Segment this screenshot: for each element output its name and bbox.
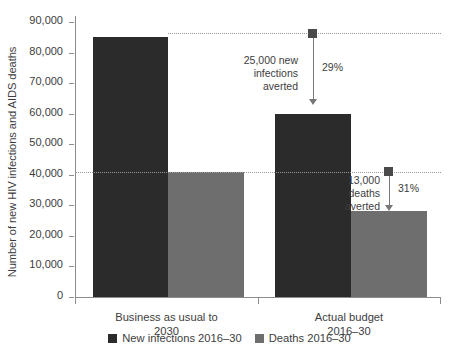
reference-line-new-infections [168,33,441,34]
annotation-text-infections: 25,000 newinfectionsaverted [183,54,298,93]
y-tick-90000: 90,000 [0,22,75,23]
legend: New infections 2016–30 Deaths 2016–30 [0,332,459,344]
y-tick-mark [69,53,74,54]
y-tick-label: 10,000 [29,258,63,270]
annotation-percent-deaths: 31% [398,182,419,194]
y-tick-80000: 80,000 [0,53,75,54]
y-tick-label: 90,000 [29,14,63,26]
x-tick-mark-end [440,298,441,304]
y-tick-label: 70,000 [29,75,63,87]
annotation-infections-line1: 25,000 new [244,54,298,66]
legend-swatch-icon [255,334,264,343]
y-tick-label: 0 [57,289,63,301]
y-tick-label: 50,000 [29,136,63,148]
y-tick-mark [69,22,74,23]
annotation-text-deaths: 13,000deathsaverted [315,174,380,213]
y-tick-mark [69,236,74,237]
annotation-deaths-line3: averted [345,200,380,212]
legend-item-new-infections[interactable]: New infections 2016–30 [108,332,241,344]
y-tick-mark [69,175,74,176]
y-tick-30000: 30,000 [0,205,75,206]
annotation-marker-deaths [384,167,393,176]
annotation-deaths-line2: deaths [348,187,380,199]
y-tick-mark [69,144,74,145]
legend-swatch-icon [108,334,117,343]
y-tick-40000: 40,000 [0,175,75,176]
x-tick-mark-start [75,298,76,304]
annotation-infections-line3: averted [263,80,298,92]
legend-label: New infections 2016–30 [122,332,241,344]
y-tick-label: 20,000 [29,228,63,240]
y-tick-mark [69,114,74,115]
x-category-line1: Actual budget [259,310,439,324]
plot-area: 90,000 80,000 70,000 60,000 50,000 40,00… [75,22,441,297]
y-tick-mark [69,83,74,84]
y-axis-line [75,16,76,297]
y-tick-label: 60,000 [29,106,63,118]
y-tick-50000: 50,000 [0,144,75,145]
annotation-infections-line2: infections [254,67,298,79]
y-tick-mark [69,297,74,298]
y-tick-label: 80,000 [29,45,63,57]
x-category-line1: Business as usual to [77,310,257,324]
annotation-percent-infections: 29% [322,61,343,73]
legend-item-deaths[interactable]: Deaths 2016–30 [255,332,351,344]
y-tick-10000: 10,000 [0,266,75,267]
annotation-deaths-line1: 13,000 [348,174,380,186]
y-tick-70000: 70,000 [0,83,75,84]
bar-deaths-actual-budget[interactable] [351,211,427,297]
y-tick-20000: 20,000 [0,236,75,237]
y-tick-mark [69,266,74,267]
legend-label: Deaths 2016–30 [269,332,351,344]
y-tick-label: 40,000 [29,167,63,179]
y-tick-0: 0 [0,297,75,298]
annotation-marker-infections [308,29,317,38]
bar-deaths-business-as-usual[interactable] [168,172,244,297]
y-tick-mark [69,205,74,206]
y-tick-60000: 60,000 [0,114,75,115]
y-tick-label: 30,000 [29,197,63,209]
bar-chart: Number of new HIV infections and AIDS de… [0,0,459,362]
x-tick-mark-mid [258,298,259,304]
bar-new-infections-business-as-usual[interactable] [93,37,168,297]
